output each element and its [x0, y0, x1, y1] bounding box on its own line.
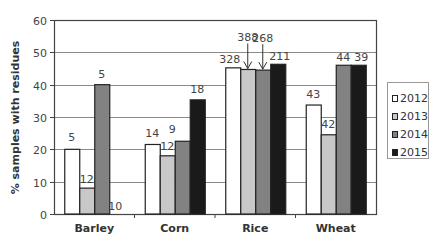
data-label: 328 [219, 53, 240, 66]
bar-wheat-2014 [336, 65, 351, 214]
legend-item-2013: 2013 [392, 107, 428, 125]
data-label: 268 [252, 32, 273, 45]
legend: 2012 2013 2014 2015 [387, 82, 429, 159]
bar-rice-2015 [271, 64, 286, 214]
legend-swatch-icon [392, 113, 398, 120]
legend-swatch-icon [392, 95, 398, 102]
legend-label: 2015 [400, 146, 428, 159]
x-tick-label: Wheat [316, 222, 356, 235]
legend-label: 2013 [400, 110, 428, 123]
data-label: 211 [269, 50, 290, 63]
bar-rice-2012 [226, 68, 241, 214]
data-label: 44 [336, 51, 350, 64]
bar-corn-2013 [160, 156, 175, 214]
bar-corn-2012 [145, 144, 160, 214]
y-tick-label: 10 [33, 177, 47, 190]
data-label: 43 [306, 88, 320, 101]
y-axis-label-text: % samples with residues [10, 40, 23, 194]
y-tick-label: 50 [33, 47, 47, 60]
bar-rice-2014 [256, 70, 271, 214]
data-label: 12 [160, 140, 174, 153]
bar-corn-2014 [175, 141, 190, 214]
y-tick-label: 60 [33, 15, 47, 28]
legend-item-2014: 2014 [392, 125, 428, 143]
data-label: 42 [321, 118, 335, 131]
y-tick-label: 20 [33, 144, 47, 157]
y-tick-label: 30 [33, 112, 47, 125]
data-label: 5 [98, 68, 105, 81]
bar-rice-2013 [241, 69, 256, 214]
y-tick-label: 0 [40, 209, 47, 222]
x-tick-label: Corn [160, 222, 189, 235]
y-tick-label: 40 [33, 80, 47, 93]
data-label: 10 [108, 200, 122, 213]
bar-barley-2014 [95, 85, 110, 214]
y-axis-label: % samples with residues [3, 20, 29, 214]
bar-wheat-2013 [321, 135, 336, 214]
bar-chart: 0102030405060512510Barley1412918Corn3283… [0, 0, 448, 241]
legend-swatch-icon [392, 149, 398, 156]
legend-swatch-icon [392, 131, 398, 138]
data-label: 14 [145, 127, 159, 140]
data-label: 12 [80, 173, 94, 186]
legend-label: 2012 [400, 92, 428, 105]
bar-corn-2015 [190, 100, 205, 214]
data-label: 9 [169, 123, 176, 136]
data-label: 18 [190, 83, 204, 96]
legend-label: 2014 [400, 128, 428, 141]
bar-wheat-2012 [306, 105, 321, 214]
legend-item-2015: 2015 [392, 143, 428, 161]
bar-wheat-2015 [351, 65, 366, 214]
x-tick-label: Rice [242, 222, 268, 235]
legend-item-2012: 2012 [392, 89, 428, 107]
bar-barley-2012 [65, 149, 80, 214]
x-tick-label: Barley [74, 222, 114, 235]
data-label: 39 [354, 51, 368, 64]
bar-barley-2013 [80, 188, 95, 214]
data-label: 5 [68, 131, 75, 144]
